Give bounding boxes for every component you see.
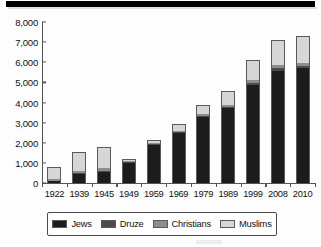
x-axis-tick-label: 2008 bbox=[268, 189, 287, 199]
y-axis-tick-mark bbox=[42, 62, 46, 63]
bar-segment-jews bbox=[196, 117, 210, 183]
y-axis-tick-label: 7,000 bbox=[4, 37, 38, 48]
x-axis-tick-label: 1939 bbox=[69, 189, 88, 199]
x-axis-tick-label: 2010 bbox=[293, 189, 312, 199]
bar-1999[interactable] bbox=[246, 60, 260, 183]
x-axis-tick-mark bbox=[315, 183, 316, 187]
bar-segment-jews bbox=[221, 108, 235, 183]
bar-1939[interactable] bbox=[72, 152, 86, 183]
x-axis-tick-mark bbox=[241, 183, 242, 187]
bar-segment-muslims bbox=[47, 167, 61, 179]
x-axis-tick-label: 1999 bbox=[243, 189, 262, 199]
y-axis-tick-label: 3,000 bbox=[4, 117, 38, 128]
y-axis-tick-mark bbox=[42, 162, 46, 163]
x-axis-tick-mark bbox=[42, 183, 43, 187]
bar-segment-jews bbox=[147, 145, 161, 183]
page-artifact bbox=[196, 240, 222, 244]
bar-segment-muslims bbox=[97, 147, 111, 168]
bar-1945[interactable] bbox=[97, 147, 111, 183]
bar-segment-jews bbox=[246, 85, 260, 183]
y-axis-tick-label: 2,000 bbox=[4, 137, 38, 148]
x-axis-tick-mark bbox=[191, 183, 192, 187]
x-axis-tick-mark bbox=[290, 183, 291, 187]
x-axis-tick-label: 1922 bbox=[45, 189, 64, 199]
bar-1922[interactable] bbox=[47, 167, 61, 183]
legend-item-druze[interactable]: Druze bbox=[101, 219, 144, 229]
legend-item-muslims[interactable]: Muslims bbox=[220, 219, 272, 229]
y-axis-tick-mark bbox=[42, 82, 46, 83]
x-axis-tick-label: 1969 bbox=[169, 189, 188, 199]
x-axis-tick-mark bbox=[265, 183, 266, 187]
y-axis-tick-mark bbox=[42, 102, 46, 103]
legend-label: Jews bbox=[71, 219, 91, 229]
x-axis-tick-mark bbox=[67, 183, 68, 187]
legend-label: Christians bbox=[172, 219, 211, 229]
bar-segment-jews bbox=[47, 181, 61, 183]
legend-swatch-christians-icon bbox=[153, 220, 168, 228]
legend-label: Muslims bbox=[239, 219, 272, 229]
bar-2008[interactable] bbox=[271, 40, 285, 183]
bar-1959[interactable] bbox=[147, 140, 161, 183]
bars-layer bbox=[42, 22, 315, 183]
bar-1979[interactable] bbox=[196, 105, 210, 183]
x-axis-tick-mark bbox=[92, 183, 93, 187]
legend-swatch-druze-icon bbox=[101, 220, 116, 228]
bar-segment-jews bbox=[122, 163, 136, 183]
y-axis-tick-mark bbox=[42, 42, 46, 43]
x-axis-tick-label: 1989 bbox=[218, 189, 237, 199]
bar-segment-jews bbox=[72, 174, 86, 183]
bar-segment-muslims bbox=[221, 91, 235, 105]
y-axis-tick-label: 4,000 bbox=[4, 97, 38, 108]
legend-swatch-muslims-icon bbox=[220, 220, 235, 228]
y-axis-tick-mark bbox=[42, 142, 46, 143]
legend-swatch-jews-icon bbox=[52, 220, 67, 228]
y-axis-tick-label: 1,000 bbox=[4, 157, 38, 168]
y-axis-tick-mark bbox=[42, 21, 46, 22]
y-axis-tick-label: 5,000 bbox=[4, 77, 38, 88]
x-axis-tick-label: 1979 bbox=[194, 189, 213, 199]
bar-segment-muslims bbox=[196, 105, 210, 114]
bar-segment-muslims bbox=[296, 36, 310, 63]
bar-1969[interactable] bbox=[172, 124, 186, 183]
bar-2010[interactable] bbox=[296, 36, 310, 183]
bar-segment-muslims bbox=[271, 40, 285, 65]
chart-page: 01,0002,0003,0004,0005,0006,0007,0008,00… bbox=[0, 0, 321, 247]
y-axis: 01,0002,0003,0004,0005,0006,0007,0008,00… bbox=[0, 0, 38, 247]
y-axis-tick-label: 0 bbox=[4, 178, 38, 189]
x-axis-tick-mark bbox=[141, 183, 142, 187]
title-band-shadow bbox=[8, 7, 317, 9]
y-axis-tick-label: 6,000 bbox=[4, 57, 38, 68]
x-axis-tick-mark bbox=[216, 183, 217, 187]
x-axis-tick-mark bbox=[116, 183, 117, 187]
x-axis-tick-mark bbox=[166, 183, 167, 187]
legend-item-jews[interactable]: Jews bbox=[52, 219, 91, 229]
x-axis-line bbox=[42, 183, 315, 184]
y-axis-tick-mark bbox=[42, 122, 46, 123]
bar-1949[interactable] bbox=[122, 159, 136, 183]
y-axis-tick-label: 8,000 bbox=[4, 17, 38, 28]
bar-segment-muslims bbox=[246, 60, 260, 80]
bar-segment-jews bbox=[296, 68, 310, 183]
bar-1989[interactable] bbox=[221, 91, 235, 183]
bar-segment-jews bbox=[172, 133, 186, 183]
chart-legend: JewsDruzeChristiansMuslims bbox=[47, 212, 277, 236]
legend-label: Druze bbox=[120, 219, 144, 229]
x-axis-tick-label: 1959 bbox=[144, 189, 163, 199]
legend-item-christians[interactable]: Christians bbox=[153, 219, 211, 229]
bar-segment-jews bbox=[271, 71, 285, 183]
x-axis-tick-label: 1949 bbox=[119, 189, 138, 199]
bar-segment-muslims bbox=[72, 152, 86, 171]
bar-segment-jews bbox=[97, 172, 111, 183]
x-axis-tick-label: 1945 bbox=[94, 189, 113, 199]
y-axis-tick-mark bbox=[42, 182, 46, 183]
